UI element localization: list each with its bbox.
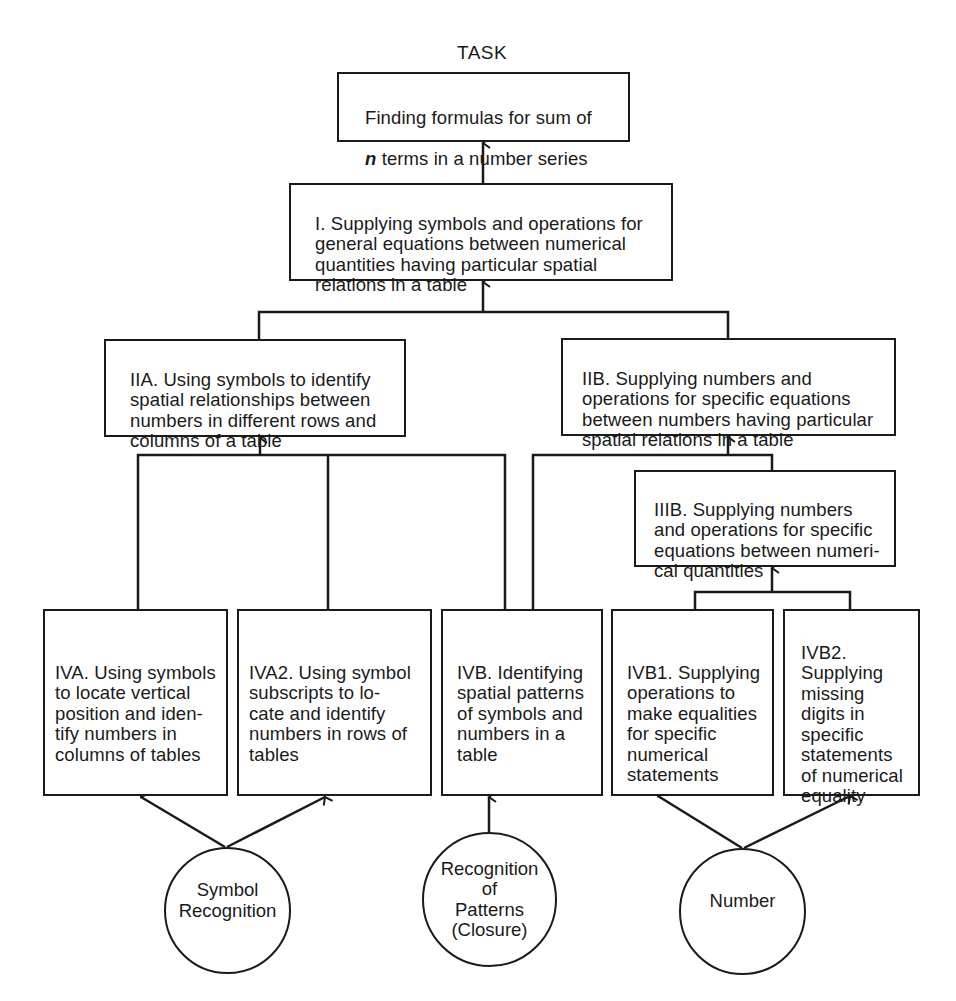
ability-symbol-recognition-label: Symbol Recognition bbox=[179, 880, 277, 921]
box-IVB2-text: IVB2. Supplying missing digits in specif… bbox=[801, 643, 918, 807]
box-IVB1: IVB1. Supplying operations to make equal… bbox=[611, 609, 774, 796]
box-IIA: IIA. Using symbols to identify spatial r… bbox=[104, 339, 406, 437]
ability-number: Number bbox=[679, 848, 806, 975]
box-IIIB: IIIB. Supplying numbers and operations f… bbox=[634, 470, 896, 567]
box-IVA: IVA. Using symbols to locate vertical po… bbox=[43, 609, 228, 796]
box-IVA-text: IVA. Using symbols to locate vertical po… bbox=[55, 663, 226, 766]
box-IVB-text: IVB. Identifying spatial patterns of sym… bbox=[457, 663, 601, 766]
box-IVA2-text: IVA2. Using symbol subscripts to lo- cat… bbox=[249, 663, 430, 766]
box-I-text: I. Supplying symbols and operations for … bbox=[315, 214, 671, 296]
box-IVB2: IVB2. Supplying missing digits in specif… bbox=[783, 609, 920, 796]
task-line2: terms in a number series bbox=[376, 148, 587, 169]
box-IIIB-text: IIIB. Supplying numbers and operations f… bbox=[654, 500, 894, 582]
box-IVA2: IVA2. Using symbol subscripts to lo- cat… bbox=[237, 609, 432, 796]
box-IVB1-text: IVB1. Supplying operations to make equal… bbox=[627, 663, 772, 786]
task-line1: Finding formulas for sum of bbox=[365, 108, 628, 129]
ability-number-label: Number bbox=[710, 891, 776, 912]
task-heading: TASK bbox=[457, 42, 507, 64]
box-IIA-text: IIA. Using symbols to identify spatial r… bbox=[130, 370, 404, 452]
box-IIB-text: IIB. Supplying numbers and operations fo… bbox=[582, 369, 894, 451]
box-IIB: IIB. Supplying numbers and operations fo… bbox=[561, 338, 896, 436]
ability-symbol-recognition: Symbol Recognition bbox=[164, 847, 291, 974]
ability-patterns-label: Recognition of Patterns (Closure) bbox=[441, 859, 539, 941]
ability-recognition-of-patterns: Recognition of Patterns (Closure) bbox=[422, 832, 557, 967]
box-IVB: IVB. Identifying spatial patterns of sym… bbox=[441, 609, 603, 796]
box-I: I. Supplying symbols and operations for … bbox=[289, 183, 673, 281]
variable-n: n bbox=[365, 148, 376, 169]
task-box: Finding formulas for sum of n terms in a… bbox=[337, 72, 630, 142]
